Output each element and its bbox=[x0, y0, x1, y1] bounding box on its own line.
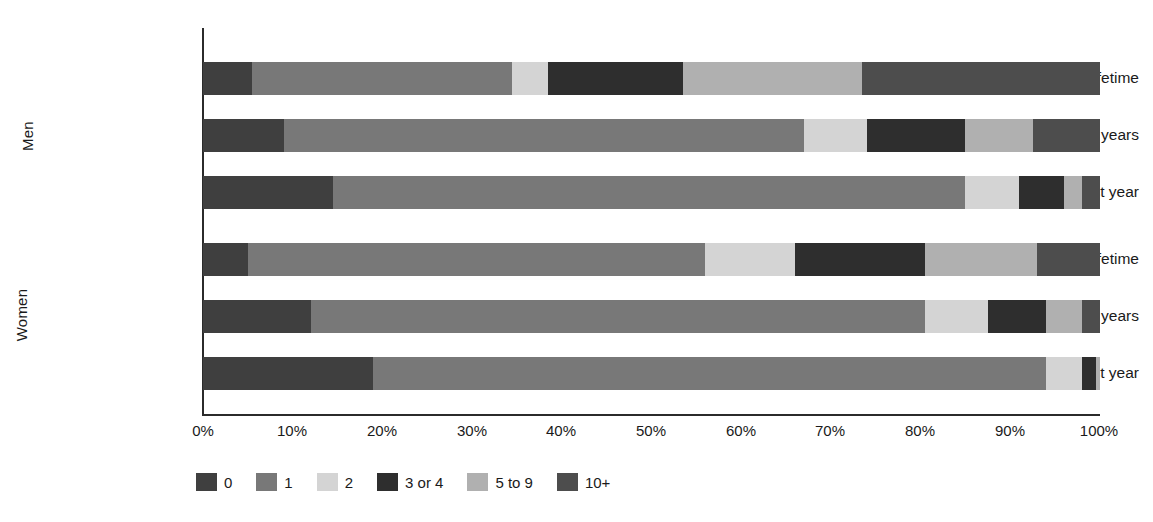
bar-segment bbox=[311, 300, 925, 333]
bar-segment bbox=[804, 119, 867, 152]
chart-legend: 0123 or 45 to 910+ bbox=[196, 470, 634, 494]
legend-item[interactable]: 3 or 4 bbox=[377, 473, 443, 491]
x-tick-0: 0% bbox=[168, 422, 238, 439]
legend-item[interactable]: 10+ bbox=[557, 473, 610, 491]
legend-swatch-icon bbox=[317, 473, 338, 491]
bar-segment bbox=[373, 357, 1046, 390]
bar-segment bbox=[203, 176, 333, 209]
legend-label: 1 bbox=[284, 474, 292, 491]
bar-segment bbox=[333, 176, 965, 209]
bar-row bbox=[203, 176, 1100, 209]
bar-segment bbox=[988, 300, 1046, 333]
legend-swatch-icon bbox=[467, 473, 488, 491]
legend-swatch-icon bbox=[557, 473, 578, 491]
bar-segment bbox=[1046, 300, 1082, 333]
bar-segment bbox=[925, 243, 1037, 276]
bar-segment bbox=[1019, 176, 1064, 209]
legend-label: 5 to 9 bbox=[495, 474, 533, 491]
x-tick-40: 40% bbox=[526, 422, 596, 439]
bar-row bbox=[203, 243, 1100, 276]
bar-segment bbox=[795, 243, 925, 276]
bar-segment bbox=[1082, 176, 1100, 209]
x-tick-10: 10% bbox=[257, 422, 327, 439]
bar-segment bbox=[203, 300, 311, 333]
bar-row bbox=[203, 119, 1100, 152]
x-tick-30: 30% bbox=[437, 422, 507, 439]
legend-item[interactable]: 0 bbox=[196, 473, 232, 491]
bar-segment bbox=[925, 300, 988, 333]
bar-segment bbox=[705, 243, 795, 276]
bar-segment bbox=[284, 119, 804, 152]
bar-segment bbox=[512, 62, 548, 95]
bar-row bbox=[203, 300, 1100, 333]
legend-swatch-icon bbox=[256, 473, 277, 491]
bar-segment bbox=[1033, 119, 1100, 152]
x-tick-90: 90% bbox=[975, 422, 1045, 439]
bar-segment bbox=[203, 119, 284, 152]
legend-item[interactable]: 1 bbox=[256, 473, 292, 491]
bar-segment bbox=[1082, 300, 1100, 333]
x-tick-60: 60% bbox=[706, 422, 776, 439]
bar-segment bbox=[683, 62, 862, 95]
bar-row bbox=[203, 62, 1100, 95]
x-tick-100: 100% bbox=[1064, 422, 1134, 439]
legend-item[interactable]: 2 bbox=[317, 473, 353, 491]
bar-segment bbox=[1082, 357, 1095, 390]
group-label-men: Men bbox=[18, 91, 38, 181]
bar-row bbox=[203, 357, 1100, 390]
bar-segment bbox=[965, 119, 1032, 152]
legend-item[interactable]: 5 to 9 bbox=[467, 473, 533, 491]
group-label-women: Women bbox=[12, 270, 32, 360]
x-tick-50: 50% bbox=[616, 422, 686, 439]
bar-segment bbox=[1046, 357, 1082, 390]
bar-segment bbox=[965, 176, 1019, 209]
x-tick-20: 20% bbox=[347, 422, 417, 439]
bar-segment bbox=[203, 62, 252, 95]
legend-swatch-icon bbox=[377, 473, 398, 491]
legend-swatch-icon bbox=[196, 473, 217, 491]
legend-label: 2 bbox=[345, 474, 353, 491]
bar-segment bbox=[867, 119, 966, 152]
bar-segment bbox=[203, 357, 373, 390]
legend-label: 0 bbox=[224, 474, 232, 491]
bar-segment bbox=[248, 243, 705, 276]
bar-segment bbox=[1037, 243, 1100, 276]
bar-segment bbox=[1064, 176, 1082, 209]
bar-segment bbox=[203, 243, 248, 276]
bar-segment bbox=[252, 62, 512, 95]
stacked-bar-chart: Men Women Lifetime Last 5 years Last yea… bbox=[0, 0, 1153, 522]
bar-segment bbox=[548, 62, 683, 95]
plot-area bbox=[203, 28, 1100, 416]
x-tick-70: 70% bbox=[795, 422, 865, 439]
bar-segment bbox=[1096, 357, 1100, 390]
x-tick-80: 80% bbox=[885, 422, 955, 439]
legend-label: 3 or 4 bbox=[405, 474, 443, 491]
bar-segment bbox=[862, 62, 1100, 95]
legend-label: 10+ bbox=[585, 474, 610, 491]
